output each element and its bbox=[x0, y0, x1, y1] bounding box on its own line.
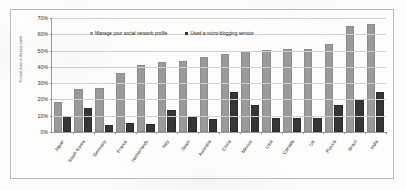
bar-series-1 bbox=[251, 105, 259, 132]
legend-label-series-1: Used a micro-blogging service bbox=[190, 31, 253, 36]
chart-legend: Manage your social network profile Used … bbox=[90, 31, 254, 36]
x-axis-label-cell: Italy bbox=[155, 134, 176, 179]
y-axis-tick-mark bbox=[50, 116, 52, 117]
y-axis-tick-label: 60% bbox=[26, 31, 48, 37]
x-axis-tick-label: India bbox=[369, 139, 379, 150]
gridline bbox=[52, 67, 386, 68]
x-axis-label-cell: China bbox=[218, 134, 239, 179]
bar-series-0 bbox=[200, 57, 208, 132]
x-axis-tick-label: USA bbox=[265, 139, 275, 150]
gridline bbox=[52, 116, 386, 117]
bar-series-1 bbox=[313, 118, 321, 132]
bar-series-0 bbox=[74, 89, 82, 132]
y-axis-tick-mark bbox=[50, 51, 52, 52]
gridline bbox=[52, 18, 386, 19]
bar-series-1 bbox=[126, 123, 134, 132]
y-axis-tick-label: 50% bbox=[26, 48, 48, 54]
gridline bbox=[52, 51, 386, 52]
legend-item-series-0: Manage your social network profile bbox=[90, 31, 167, 36]
x-axis-tick-label: Mexico bbox=[241, 139, 254, 154]
bar-series-1 bbox=[230, 92, 238, 132]
bar-series-0 bbox=[304, 49, 312, 132]
bar-series-1 bbox=[84, 108, 92, 132]
bar-series-1 bbox=[209, 119, 217, 132]
bar-series-0 bbox=[95, 88, 103, 132]
bar-series-1 bbox=[167, 110, 175, 132]
x-axis-tick-label: Germany bbox=[92, 139, 107, 158]
x-axis-tick-label: Spain bbox=[180, 139, 191, 152]
bar-series-0 bbox=[158, 62, 166, 132]
bar-series-0 bbox=[262, 50, 270, 132]
x-axis-label-cell: Australia bbox=[197, 134, 218, 179]
y-axis-tick-label: 70% bbox=[26, 15, 48, 21]
bar-series-1 bbox=[376, 92, 384, 132]
plot-area-wrapper: % Have done in the last month 70%60%50%4… bbox=[10, 9, 394, 179]
y-axis-title: % Have done in the last month bbox=[19, 24, 23, 94]
gridline bbox=[52, 83, 386, 84]
y-axis-tick-mark bbox=[50, 132, 52, 133]
x-axis-tick-label: Canada bbox=[282, 139, 295, 155]
x-axis-tick-label: Russia bbox=[325, 139, 337, 154]
bar-series-1 bbox=[334, 105, 342, 132]
bar-series-1 bbox=[293, 118, 301, 132]
y-axis-tick-labels: 70%60%50%40%30%20%10%0% bbox=[26, 18, 48, 132]
bar-series-0 bbox=[116, 73, 124, 132]
x-axis-label-cell: Canada bbox=[281, 134, 302, 179]
y-axis-tick-label: 10% bbox=[26, 113, 48, 119]
bar-series-1 bbox=[63, 116, 71, 132]
x-axis-label-cell: Mexico bbox=[239, 134, 260, 179]
y-axis-tick-mark bbox=[50, 67, 52, 68]
gridline bbox=[52, 99, 386, 100]
y-axis-tick-mark bbox=[50, 34, 52, 35]
x-axis-label-cell: Spain bbox=[176, 134, 197, 179]
y-axis-tick-mark bbox=[50, 83, 52, 84]
x-axis-tick-label: Brazil bbox=[347, 139, 358, 152]
x-axis-tick-label: China bbox=[221, 139, 232, 152]
x-axis-tick-label: Italy bbox=[161, 139, 170, 149]
x-axis-label-cell: Germany bbox=[93, 134, 114, 179]
x-axis-label-cell: Netherlands bbox=[135, 134, 156, 179]
chart-figure: % Have done in the last month 70%60%50%4… bbox=[0, 0, 406, 190]
bar-series-0 bbox=[283, 49, 291, 132]
y-axis-tick-mark bbox=[50, 99, 52, 100]
bar-series-1 bbox=[188, 117, 196, 132]
x-axis-tick-label: France bbox=[116, 139, 128, 154]
legend-swatch-icon-series-0 bbox=[90, 32, 93, 35]
y-axis-tick-label: 40% bbox=[26, 64, 48, 70]
y-axis-tick-label: 30% bbox=[26, 80, 48, 86]
bar-series-0 bbox=[54, 102, 62, 132]
bar-series-1 bbox=[272, 118, 280, 132]
bar-series-0 bbox=[179, 61, 187, 132]
x-axis-label-cell: India bbox=[364, 134, 385, 179]
legend-item-series-1: Used a micro-blogging service bbox=[185, 31, 253, 36]
x-axis-label-cell: South Korea bbox=[72, 134, 93, 179]
x-axis-tick-label: Japan bbox=[54, 139, 65, 152]
x-axis-label-cell: Russia bbox=[322, 134, 343, 179]
bar-series-0 bbox=[241, 51, 249, 132]
y-axis-tick-label: 0% bbox=[26, 129, 48, 135]
x-axis-label-cell: USA bbox=[260, 134, 281, 179]
legend-label-series-0: Manage your social network profile bbox=[95, 31, 167, 36]
legend-swatch-icon-series-1 bbox=[185, 32, 188, 35]
bar-series-1 bbox=[146, 124, 154, 132]
x-axis-tick-labels: JapanSouth KoreaGermanyFranceNetherlands… bbox=[51, 134, 385, 179]
x-axis-label-cell: Brazil bbox=[343, 134, 364, 179]
y-axis-tick-mark bbox=[50, 18, 52, 19]
x-axis-tick-label: UK bbox=[308, 139, 316, 147]
bar-series-0 bbox=[325, 44, 333, 132]
x-axis-tick-mark bbox=[386, 132, 387, 134]
x-axis-label-cell: UK bbox=[302, 134, 323, 179]
x-axis-tick-label: Australia bbox=[197, 139, 212, 157]
y-axis-tick-label: 20% bbox=[26, 96, 48, 102]
bar-series-1 bbox=[105, 125, 113, 132]
